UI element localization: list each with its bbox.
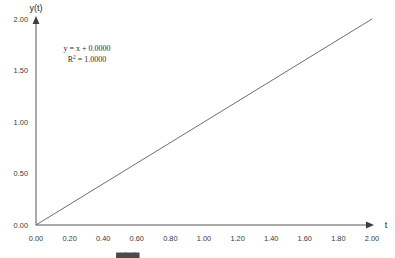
x-tick-label: 0.80 <box>163 234 177 243</box>
x-tick-label: 0.60 <box>130 234 144 243</box>
x-tick-label: 0.40 <box>96 234 110 243</box>
y-tick-label: 2.00 <box>14 15 28 24</box>
annotation-r-value: = 1.0000 <box>76 55 107 64</box>
x-tick-label: 1.20 <box>230 234 244 243</box>
y-tick-label: 1.50 <box>14 66 28 75</box>
y-axis-title: y(t) <box>30 3 43 13</box>
x-tick-label: 0.00 <box>29 234 43 243</box>
x-tick-label: 1.40 <box>264 234 278 243</box>
x-axis-arrowhead <box>366 222 374 229</box>
y-tick-label: 1.00 <box>14 118 28 127</box>
x-tick-label: 1.80 <box>331 234 345 243</box>
clipped-caption: ▆▆▆▆▆ <box>116 252 286 258</box>
y-tick-label: 0.50 <box>14 169 28 178</box>
clipped-caption-text: ▆▆▆▆▆ <box>116 252 139 258</box>
x-tick-label: 1.00 <box>197 234 211 243</box>
x-tick-label: 2.00 <box>365 234 379 243</box>
chart-container: 0.00 0.50 1.00 1.50 2.00 0.00 0.20 0.40 … <box>0 0 395 258</box>
line-chart: 0.00 0.50 1.00 1.50 2.00 0.00 0.20 0.40 … <box>0 0 395 258</box>
annotation-equation: y = x + 0.0000 <box>63 44 110 53</box>
x-tick-label: 1.60 <box>298 234 312 243</box>
y-tick-label: 0.00 <box>14 221 28 230</box>
annotation-r-squared: R2 = 1.0000 <box>68 54 107 64</box>
y-axis-arrowhead <box>33 16 40 24</box>
x-axis-title: t <box>385 220 388 230</box>
x-tick-label: 0.20 <box>62 234 76 243</box>
